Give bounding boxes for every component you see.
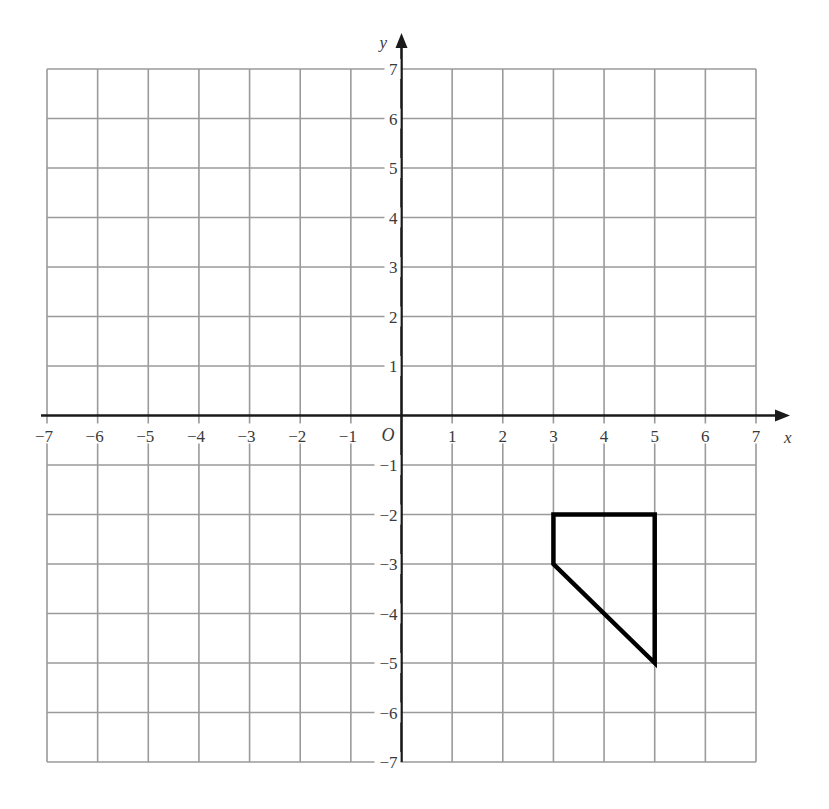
x-tick-label: 2 [499, 427, 508, 446]
x-tick-label: −2 [288, 427, 306, 446]
coordinate-grid-diagram: −7−6−5−4−3−2−11234567 7654321−1−2−3−4−5−… [0, 0, 829, 809]
x-tick-label: −7 [35, 427, 54, 446]
y-tick-label: −5 [379, 654, 397, 673]
x-tick-label: −3 [238, 427, 256, 446]
x-tick-label: −5 [136, 427, 154, 446]
x-tick-label: −1 [339, 427, 357, 446]
y-tick-label: −3 [379, 555, 397, 574]
x-axis-arrow-icon [775, 410, 790, 422]
origin-label: O [382, 425, 395, 445]
x-axis-tick-labels: −7−6−5−4−3−2−11234567 [33, 424, 762, 446]
y-tick-label: 7 [389, 60, 398, 79]
y-axis-arrow-icon [396, 33, 408, 48]
x-tick-label: 5 [650, 427, 659, 446]
x-tick-label: 4 [600, 427, 609, 446]
x-tick-label: −6 [86, 427, 104, 446]
y-tick-label: 4 [389, 209, 398, 228]
y-tick-label: 6 [389, 110, 398, 129]
x-tick-label: 7 [752, 427, 761, 446]
y-tick-label: 3 [389, 258, 398, 277]
x-tick-label: −4 [187, 427, 206, 446]
x-tick-label: 1 [448, 427, 457, 446]
y-tick-label: −6 [379, 704, 397, 723]
y-tick-label: 1 [389, 357, 398, 376]
y-tick-label: 2 [389, 308, 398, 327]
x-tick-label: 6 [701, 427, 710, 446]
y-tick-label: −2 [379, 506, 397, 525]
y-axis-label: y [378, 33, 388, 52]
axes [41, 33, 790, 762]
x-axis-label: x [783, 428, 792, 447]
y-tick-label: −4 [379, 605, 398, 624]
y-tick-label: −1 [379, 456, 397, 475]
y-tick-label: −7 [379, 753, 398, 772]
y-tick-label: 5 [389, 159, 398, 178]
grid-svg: −7−6−5−4−3−2−11234567 7654321−1−2−3−4−5−… [0, 0, 829, 809]
x-tick-label: 3 [549, 427, 558, 446]
